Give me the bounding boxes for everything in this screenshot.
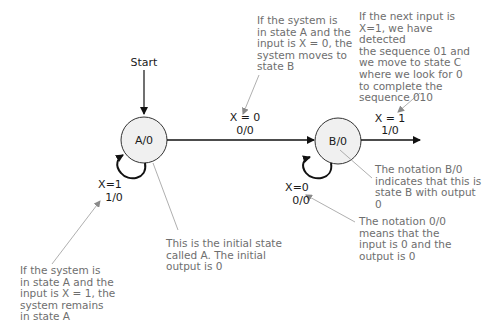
start-label: Start (130, 56, 158, 69)
annotation-a-self-loop: If the system is in state A and the inpu… (20, 265, 115, 321)
annotation-b-notation: The notation B/0 indicates that this is … (375, 164, 482, 210)
annotation-line-initial-state (153, 163, 178, 230)
state-a-label: A/0 (124, 134, 164, 147)
self-loop-a-io: 1/0 (99, 191, 129, 204)
annotation-line-a-self-loop (52, 201, 100, 264)
transition-a-b-io: 0/0 (225, 124, 265, 137)
self-loop-b-condition: X=0 (282, 181, 312, 194)
annotation-io-notation: The notation 0/0 means that the input is… (359, 216, 451, 262)
state-b-label: B/0 (318, 135, 358, 148)
annotation-b-to-c: If the next input is X=1, we have detect… (359, 11, 482, 104)
annotation-line-a-to-b (243, 75, 259, 114)
transition-a-b-condition: X = 0 (225, 111, 265, 124)
transition-b-c-io: 1/0 (372, 124, 408, 137)
self-loop-b-io: 0/0 (286, 194, 316, 207)
self-loop-a-condition: X=1 (95, 178, 125, 191)
annotation-initial-state: This is the initial state called A. The … (166, 238, 282, 273)
annotation-a-to-b: If the system is in state A and the inpu… (257, 15, 352, 73)
